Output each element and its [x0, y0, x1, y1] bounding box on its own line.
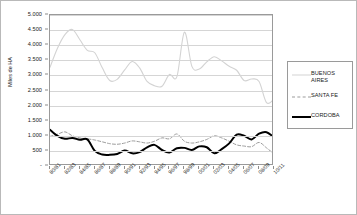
x-axis-tick-label: 10/11	[272, 162, 286, 176]
legend-line-icon-santa-fe	[292, 93, 311, 101]
gridline	[50, 45, 272, 46]
gridline	[50, 91, 272, 92]
y-axis-tick-mark	[45, 29, 48, 30]
y-axis-tick-label: 500	[33, 147, 42, 153]
y-axis-tick-label: 2.500	[28, 87, 42, 93]
y-axis-tick-mark	[45, 134, 48, 135]
legend-item-cordoba: CORDOBA	[292, 112, 352, 121]
gridline	[50, 151, 272, 152]
y-axis: 5.0004.5004.0003.5003.0002.5002.0001.500…	[1, 14, 46, 165]
legend-item-santa-fe: SANTA FE	[292, 92, 352, 101]
y-axis-tick-mark	[45, 74, 48, 75]
y-axis-tick-mark	[45, 44, 48, 45]
gridline	[50, 60, 272, 61]
y-axis-tick-mark	[45, 119, 48, 120]
gridline	[50, 106, 272, 107]
y-axis-tick-label: 2.000	[28, 102, 42, 108]
legend-label-buenos-aires: BUENOS AIRES	[311, 70, 352, 83]
gridline	[50, 30, 272, 31]
plot-area	[49, 14, 273, 165]
y-axis-tick-label: 3.000	[28, 71, 42, 77]
y-axis-tick-label: 5.000	[28, 11, 42, 17]
y-axis-tick-label: 4.500	[28, 26, 42, 32]
y-axis-tick-mark	[45, 104, 48, 105]
gridline	[50, 136, 272, 137]
gridline	[50, 121, 272, 122]
legend: BUENOS AIRES SANTA FE CORDOBA	[287, 61, 353, 129]
legend-line-icon-buenos-aires	[292, 71, 311, 79]
legend-label-santa-fe: SANTA FE	[311, 92, 338, 99]
chart-figure: Miles de HA 5.0004.5004.0003.5003.0002.5…	[0, 0, 357, 215]
y-axis-tick-label: 1.000	[28, 132, 42, 138]
legend-item-buenos-aires: BUENOS AIRES	[292, 70, 352, 83]
y-axis-tick-label: 4.000	[28, 41, 42, 47]
x-axis: 80/8182/8384/8586/8788/8990/9192/9394/95…	[49, 166, 273, 214]
gridline	[50, 15, 272, 16]
y-axis-tick-mark	[45, 59, 48, 60]
y-axis-tick-label: -	[40, 162, 42, 168]
y-axis-tick-label: 1.500	[28, 117, 42, 123]
legend-label-cordoba: CORDOBA	[311, 112, 340, 119]
legend-line-icon-cordoba	[292, 113, 311, 121]
y-axis-tick-mark	[45, 14, 48, 15]
gridline	[50, 75, 272, 76]
series-line-buenos-aires	[50, 29, 273, 103]
y-axis-tick-mark	[45, 165, 48, 166]
y-axis-tick-mark	[45, 89, 48, 90]
y-axis-tick-label: 3.500	[28, 56, 42, 62]
y-axis-tick-mark	[45, 149, 48, 150]
